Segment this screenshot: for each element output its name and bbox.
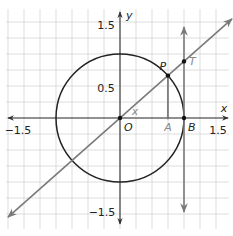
point-B: [182, 116, 186, 120]
point-A: [167, 117, 170, 120]
tick-label-x-neg: −1.5: [5, 124, 32, 137]
point-P: [166, 73, 170, 77]
tick-label-y-pos: 1.5: [97, 19, 115, 32]
tick-label-y-half: 0.5: [97, 82, 115, 95]
point-label-T: T: [189, 55, 197, 68]
y-axis-label: y: [125, 9, 133, 22]
x-axis-label: x: [220, 102, 228, 115]
geometry: [8, 12, 232, 224]
unit-circle-diagram: x y −1.5 1.5 1.5 0.5 −1.5 O A B P T x: [0, 0, 233, 236]
point-label-B: B: [188, 121, 196, 134]
tick-label-y-neg: −1.5: [89, 206, 116, 219]
tick-label-x-pos: 1.5: [209, 124, 227, 137]
point-label-O: O: [124, 121, 133, 134]
point-label-A: A: [163, 121, 172, 134]
point-T: [182, 59, 186, 63]
labels: x y −1.5 1.5 1.5 0.5 −1.5 O A B P T x: [5, 9, 228, 219]
angle-label-x: x: [131, 105, 139, 118]
grid: [6, 9, 229, 229]
point-O: [118, 116, 122, 120]
point-label-P: P: [160, 60, 167, 73]
